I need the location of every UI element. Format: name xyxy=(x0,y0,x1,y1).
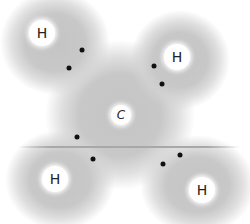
hydrogen-atom-4: H xyxy=(189,177,215,203)
electron-dot xyxy=(178,153,183,158)
electron-dot xyxy=(160,82,165,87)
hydrogen-atom-3: H xyxy=(42,166,68,192)
hydrogen-label: H xyxy=(37,25,48,41)
methane-diagram: C H H H H xyxy=(0,0,250,224)
electron-dot xyxy=(75,135,80,140)
hydrogen-label: H xyxy=(197,182,208,198)
plane-line xyxy=(18,146,240,148)
electron-dot xyxy=(161,162,166,167)
electron-dot xyxy=(152,64,157,69)
hydrogen-label: H xyxy=(172,49,183,65)
electron-dot xyxy=(80,48,85,53)
hydrogen-label: H xyxy=(50,171,61,187)
carbon-label: C xyxy=(117,108,125,122)
electron-dot xyxy=(67,66,72,71)
hydrogen-atom-2: H xyxy=(164,44,190,70)
carbon-atom: C xyxy=(111,105,131,125)
hydrogen-atom-1: H xyxy=(29,20,55,46)
electron-dot xyxy=(91,157,96,162)
